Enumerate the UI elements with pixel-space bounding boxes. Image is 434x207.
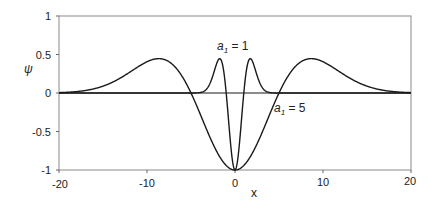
y-axis: 1 0.5 0 -0.5 -1 ψ [24,10,59,176]
annotation-rest: = 1 [228,39,249,53]
chart-canvas: 1 0.5 0 -0.5 -1 ψ -20 -10 0 10 20 x a1 =… [0,0,434,207]
y-tick-label: 0 [45,87,51,99]
y-tick-label: 0.5 [36,49,51,61]
x-tick-label: -20 [52,178,68,190]
y-tick-label: -0.5 [32,126,51,138]
annotation-rest: = 5 [285,101,306,115]
x-axis: -20 -10 0 10 20 x [52,170,416,200]
x-tick-label: -10 [139,177,155,189]
x-axis-label: x [251,186,257,200]
y-tick-label: -1 [41,164,51,176]
annotation-a1-5: a1 = 5 [274,101,306,117]
y-axis-label: ψ [24,62,33,76]
annotation-a1-1: a1 = 1 [217,39,249,55]
y-tick-label: 1 [45,10,51,22]
series-line-a1-1 [59,59,411,170]
x-tick-label: 10 [317,176,329,188]
series-line-a1-5 [59,59,411,170]
x-tick-label: 20 [404,175,416,187]
x-tick-label: 0 [232,177,238,189]
